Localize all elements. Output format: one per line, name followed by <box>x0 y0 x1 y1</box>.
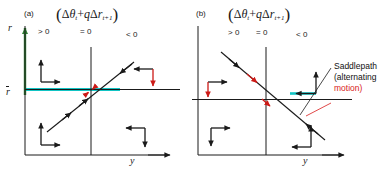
panel-a-graphics <box>25 26 180 155</box>
panel-b-formula: (Δθt+qΔrt+1) <box>228 6 290 23</box>
panel-b-y-axis-label: y <box>303 156 307 166</box>
panel-a-formula-r-sub: t+1 <box>102 14 112 22</box>
panel-a-formula-close-paren: ) <box>113 5 119 24</box>
panel-a-rbar-text: r <box>6 86 10 97</box>
panel-b-graphics <box>192 26 352 155</box>
panel-b-note-leader-red <box>306 103 331 116</box>
panel-a-formula: (Δθt+qΔrt+1) <box>56 6 118 23</box>
panel-b-saddlepath-arrow-2 <box>247 74 257 83</box>
saddlepath-annotation: Saddlepath (alternating motion) <box>334 61 377 94</box>
panel-b-formula-close-paren: ) <box>285 5 291 24</box>
panel-b-inequality-negative: < 0 <box>296 31 307 39</box>
panel-a-red-mark-origin <box>84 92 89 96</box>
panel-a-saddlepath-arrow-upper <box>120 64 132 74</box>
panel-b-inequality-zero: = 0 <box>256 29 267 37</box>
panel-b-saddlepath-arrow-1 <box>229 59 239 68</box>
saddlepath-annotation-line1: Saddlepath <box>334 61 377 72</box>
phase-diagram-figure: (a) r r y (Δθt+qΔrt+1) > 0 = 0 < 0 (b) y… <box>0 0 384 183</box>
panel-a-rbar-label: r <box>6 82 10 98</box>
panel-a-formula-delta2: Δ <box>90 7 98 21</box>
saddlepath-annotation-line2: (alternating <box>334 72 377 83</box>
panel-b-tag: (b) <box>196 10 206 18</box>
panel-b-formula-plus: + <box>249 7 256 21</box>
panel-b-saddlepath-arrow-3 <box>306 124 318 134</box>
panel-a-inequality-positive: > 0 <box>38 28 49 36</box>
saddlepath-annotation-line3: motion) <box>334 83 377 94</box>
panel-a-saddlepath-arrow-lower-2 <box>79 99 88 106</box>
panel-b-formula-delta2: Δ <box>262 7 270 21</box>
phase-diagram-canvas <box>0 0 384 183</box>
panel-a-formula-plus: + <box>77 7 84 21</box>
panel-a-tag: (a) <box>24 10 34 18</box>
panel-a-inequality-negative: < 0 <box>126 31 137 39</box>
panel-a-saddlepath-arrow-lower <box>62 113 71 120</box>
panel-b-inequality-positive: > 0 <box>228 29 239 37</box>
panel-a-y-axis-label: y <box>130 156 134 166</box>
panel-b-formula-r-sub: t+1 <box>274 14 284 22</box>
panel-a-inequality-zero: = 0 <box>80 28 91 36</box>
panel-a-r-axis-label: r <box>8 23 12 33</box>
